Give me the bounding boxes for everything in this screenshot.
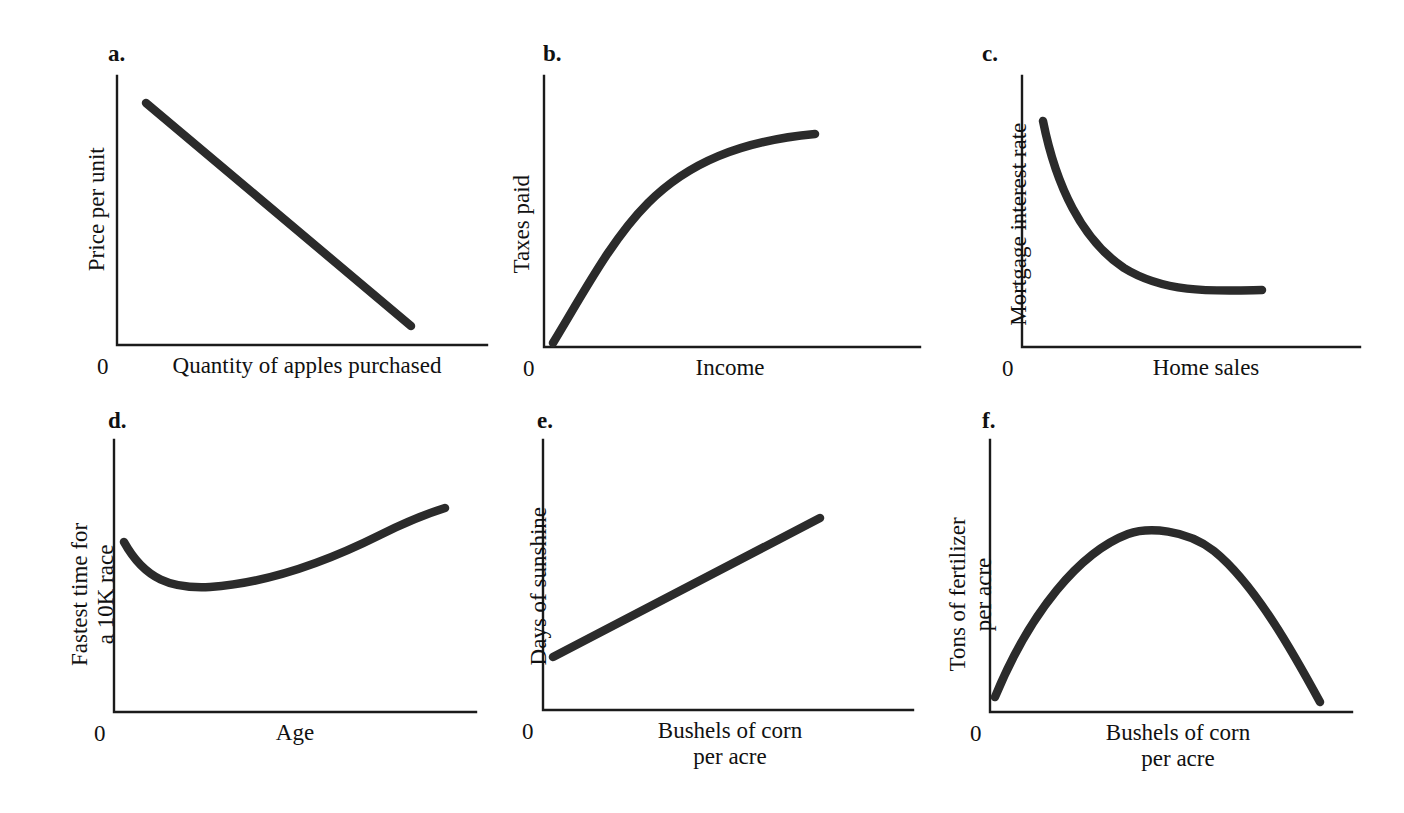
- six-panel-graph-figure: a. 0 Quantity of apples purchased Price …: [0, 0, 1404, 813]
- panel-f-plot: [0, 0, 1404, 813]
- panel-f-axes: [990, 440, 1352, 712]
- panel-f-origin-label: 0: [970, 722, 982, 745]
- panel-f-x-axis-label: Bushels of corn per acre: [1018, 720, 1338, 773]
- panel-f-y-axis-label: Tons of fertilizer per acre: [945, 492, 998, 697]
- panel-f-curve: [995, 530, 1320, 702]
